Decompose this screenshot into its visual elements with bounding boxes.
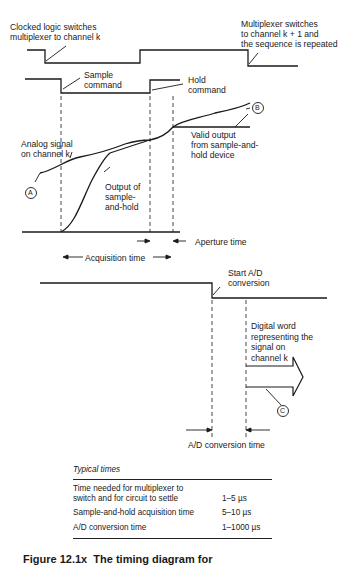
table-row-label: Sample-and-hold acquisition time: [73, 508, 194, 518]
table-bottom-rule: [73, 538, 272, 539]
table-row: Time needed for multiplexer to switch an…: [73, 480, 272, 506]
table-row-value: 1–5 µs: [222, 494, 272, 504]
ad-dashed-guides: [212, 300, 246, 437]
multiplexer-clock-waveform: [27, 50, 298, 66]
analog-signal-label: Analog signal on channel k: [21, 139, 73, 159]
table-row-value: 1–1000 µs: [222, 523, 272, 533]
digital-word-label: Digital word representing the signal on …: [251, 321, 313, 363]
clocked-logic-label: Clocked logic switches multiplexer to ch…: [10, 22, 100, 42]
marker-b: B: [255, 103, 260, 113]
hold-command-label: Hold command: [188, 75, 226, 95]
aperture-time-label: Aperture time: [195, 237, 247, 247]
start-ad-label: Start A/D conversion: [228, 268, 270, 288]
sample-command-label: Sample command: [84, 70, 122, 90]
table-row: Sample-and-hold acquisition time 5–10 µs: [73, 506, 272, 521]
typical-times-table: Typical times Time needed for multiplexe…: [73, 465, 272, 539]
table-title: Typical times: [73, 465, 272, 479]
marker-c: C: [280, 406, 285, 416]
figure-caption: Figure 12.1x The timing diagram for: [23, 553, 212, 565]
multiplexer-switches-label: Multiplexer switches to channel k + 1 an…: [241, 19, 338, 49]
output-sample-hold-label: Output of sample- and-hold: [105, 182, 140, 212]
acquisition-time-label: Acquisition time: [85, 253, 145, 263]
valid-output-label: Valid output from sample-and- hold devic…: [191, 130, 258, 160]
table-row-value: 5–10 µs: [222, 508, 272, 518]
ad-conversion-time-label: A/D conversion time: [188, 440, 265, 450]
marker-a: A: [28, 188, 33, 198]
table-row-label: A/D conversion time: [73, 523, 146, 533]
table-row: A/D conversion time 1–1000 µs: [73, 521, 272, 536]
ad-start-waveform: [40, 283, 327, 298]
table-row-label: Time needed for multiplexer to switch an…: [73, 484, 183, 503]
